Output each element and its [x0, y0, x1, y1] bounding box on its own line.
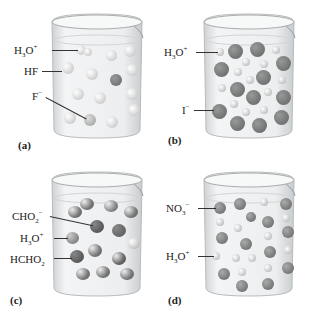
leader-line: [54, 238, 68, 239]
molecule: [230, 82, 245, 97]
molecule: [88, 244, 102, 257]
panel-b: H3O+ I− (b): [160, 0, 320, 158]
molecule: [64, 112, 76, 124]
label-h3o: H3O+: [20, 232, 43, 247]
leader-line: [196, 52, 218, 53]
molecule: [218, 268, 230, 280]
molecule: [96, 266, 110, 278]
molecule: [124, 45, 136, 57]
panel-a: H3O+ HF F− (a): [0, 0, 160, 158]
molecule: [282, 214, 290, 222]
molecule: [264, 88, 272, 96]
label-sup: −: [38, 89, 42, 97]
molecule: [70, 250, 84, 263]
molecule: [216, 218, 224, 226]
molecule: [260, 106, 268, 114]
molecule: [218, 84, 226, 92]
molecule: [124, 206, 138, 218]
molecule: [264, 232, 272, 240]
molecule: [250, 42, 265, 57]
molecule: [242, 108, 250, 116]
label-f-minus: F−: [32, 90, 42, 102]
panel-tag: (a): [18, 139, 31, 151]
molecule: [282, 226, 294, 238]
molecule: [276, 90, 291, 105]
label-base: HCHO: [10, 253, 41, 265]
molecule: [94, 92, 106, 104]
molecule: [110, 74, 122, 86]
label-base: CHO: [12, 210, 35, 222]
molecule: [278, 76, 286, 84]
molecule: [214, 62, 229, 77]
label-h3o: H3O+: [14, 44, 37, 59]
label-no3-minus: NO3−: [166, 202, 189, 217]
molecule: [84, 48, 92, 56]
molecule: [128, 238, 140, 249]
molecule: [72, 88, 84, 100]
molecule: [262, 216, 274, 228]
molecule: [216, 232, 228, 244]
label-base: H: [166, 250, 174, 262]
label-base: H: [164, 46, 172, 58]
molecule: [86, 68, 98, 80]
molecule: [234, 198, 246, 210]
molecule: [106, 50, 117, 61]
molecule: [264, 246, 276, 258]
molecule: [260, 60, 268, 68]
label-sup: −: [185, 201, 189, 209]
molecule: [234, 224, 242, 232]
molecules: [160, 0, 320, 158]
molecule: [228, 44, 243, 59]
molecule: [68, 206, 82, 218]
molecule: [84, 114, 96, 126]
molecule: [256, 70, 271, 85]
molecule: [280, 198, 292, 210]
molecule: [240, 238, 252, 250]
panel-tag: (b): [168, 134, 181, 146]
label-base: H: [20, 232, 28, 244]
molecule: [282, 262, 294, 274]
panel-d: NO3− H3O+ (d): [160, 158, 320, 316]
leader-line: [54, 258, 72, 259]
molecule: [104, 200, 118, 212]
molecule: [246, 76, 254, 84]
molecule: [284, 246, 292, 254]
molecule: [232, 254, 240, 262]
molecule: [276, 56, 291, 71]
panel-tag: (c): [10, 294, 22, 306]
label-sub: 3: [182, 209, 186, 217]
molecule: [80, 198, 94, 210]
label-h3o: H3O+: [164, 46, 187, 61]
label-hcho2: HCHO2: [10, 254, 45, 268]
molecule: [272, 46, 280, 54]
molecule: [246, 90, 261, 105]
molecule: [274, 110, 289, 125]
panel-c: CHO2− H3O+ HCHO2 (c): [0, 158, 160, 316]
molecule: [262, 278, 274, 290]
molecule: [126, 88, 138, 100]
molecule: [112, 252, 126, 265]
molecule: [260, 198, 268, 206]
label-sup: +: [39, 231, 43, 239]
molecules: [160, 158, 320, 316]
molecules: [0, 0, 160, 158]
label-base: HF: [24, 65, 38, 77]
label-base: NO: [166, 202, 182, 214]
molecule: [62, 62, 74, 74]
molecule: [230, 116, 245, 131]
leader-line: [198, 256, 214, 257]
molecule: [234, 68, 242, 76]
leader-line: [198, 208, 216, 209]
molecule: [76, 268, 90, 280]
leader-line: [52, 50, 78, 51]
label-sub: 2: [41, 260, 45, 268]
molecule: [126, 64, 138, 76]
molecule: [264, 264, 272, 272]
label-base: H: [14, 44, 22, 56]
molecule: [246, 212, 256, 222]
label-sup: +: [33, 43, 37, 51]
molecule: [248, 254, 256, 262]
panel-tag: (d): [168, 294, 181, 306]
molecule: [252, 118, 267, 133]
leader-line: [42, 71, 62, 72]
